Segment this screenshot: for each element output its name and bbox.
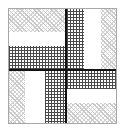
- quilt-block-frame: [8, 8, 117, 124]
- band-hatch-top-right: [101, 9, 117, 69]
- band-white-bottom-right: [67, 89, 117, 103]
- band-cross-top-right: [67, 9, 84, 69]
- band-white-top-right: [84, 9, 101, 69]
- quadrant-top-left: [9, 9, 65, 69]
- quadrant-bottom-right: [67, 71, 117, 124]
- divider-vertical-line: [65, 9, 67, 124]
- figure-canvas: [0, 0, 123, 134]
- band-hatch-bottom-right: [67, 103, 117, 124]
- quadrant-bottom-left: [9, 71, 65, 124]
- band-white-top-left: [9, 32, 65, 46]
- band-cross-bottom-left: [45, 71, 65, 124]
- band-hatch-top-left: [9, 9, 65, 32]
- band-cross-bottom-right: [67, 71, 117, 89]
- band-cross-top-left: [9, 46, 65, 69]
- quadrant-top-right: [67, 9, 117, 69]
- divider-horizontal-line: [9, 69, 117, 71]
- band-hatch-bottom-left: [9, 71, 25, 124]
- band-white-bottom-left: [25, 71, 45, 124]
